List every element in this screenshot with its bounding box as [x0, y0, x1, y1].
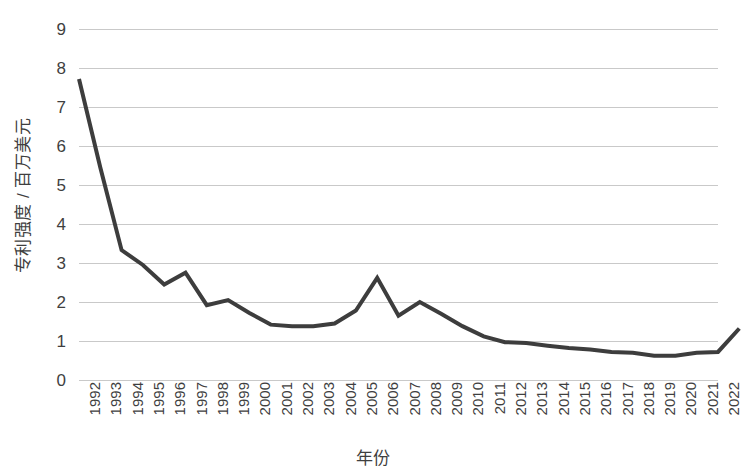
x-axis-title-label: 年份: [356, 449, 390, 468]
y-tick-label: 9: [57, 21, 66, 38]
x-tick-label: 1996: [172, 382, 188, 444]
y-tick-label: 8: [57, 60, 66, 77]
x-tick-label: 2014: [556, 382, 572, 444]
x-tick-label: 1994: [130, 382, 146, 444]
y-axis-title-label: 专利强度 / 百万美元: [10, 117, 35, 273]
y-axis-tick-labels: 0123456789: [38, 0, 72, 400]
y-tick-label: 2: [57, 294, 66, 311]
x-tick-label: 2021: [705, 382, 721, 444]
x-tick-label: 1997: [194, 382, 210, 444]
y-tick-label: 1: [57, 333, 66, 350]
y-tick-label: 0: [57, 372, 66, 389]
line-chart: 专利强度 / 百万美元 0123456789 19921993199419951…: [0, 0, 745, 473]
y-tick-label: 6: [57, 138, 66, 155]
data-series-line: [79, 29, 718, 380]
y-tick-label: 7: [57, 99, 66, 116]
x-tick-label: 2013: [534, 382, 550, 444]
x-tick-label: 2008: [428, 382, 444, 444]
gridline-0: [79, 380, 718, 381]
x-tick-label: 2016: [598, 382, 614, 444]
x-tick-label: 2018: [641, 382, 657, 444]
x-tick-label: 2009: [449, 382, 465, 444]
x-tick-label: 1992: [87, 382, 103, 444]
plot-area: [79, 29, 718, 380]
x-tick-label: 2004: [343, 382, 359, 444]
x-tick-label: 2017: [620, 382, 636, 444]
x-axis-title: 年份: [0, 444, 745, 469]
x-tick-label: 1998: [215, 382, 231, 444]
x-tick-label: 1993: [108, 382, 124, 444]
x-tick-label: 2006: [385, 382, 401, 444]
x-tick-label: 2019: [662, 382, 678, 444]
x-tick-label: 2020: [683, 382, 699, 444]
x-axis-tick-labels: 1992199319941995199619971998199920002001…: [79, 382, 718, 444]
x-tick-label: 2000: [257, 382, 273, 444]
y-tick-label: 3: [57, 255, 66, 272]
y-tick-label: 4: [57, 216, 66, 233]
x-tick-label: 2003: [321, 382, 337, 444]
x-tick-label: 2022: [726, 382, 742, 444]
y-tick-label: 5: [57, 177, 66, 194]
x-tick-label: 1999: [236, 382, 252, 444]
x-tick-label: 2015: [577, 382, 593, 444]
x-tick-label: 2001: [279, 382, 295, 444]
x-tick-label: 2002: [300, 382, 316, 444]
x-tick-label: 2011: [492, 382, 508, 444]
x-tick-label: 2012: [513, 382, 529, 444]
y-axis-title: 专利强度 / 百万美元: [8, 0, 36, 390]
x-tick-label: 2007: [407, 382, 423, 444]
x-tick-label: 1995: [151, 382, 167, 444]
x-tick-label: 2005: [364, 382, 380, 444]
x-tick-label: 2010: [470, 382, 486, 444]
